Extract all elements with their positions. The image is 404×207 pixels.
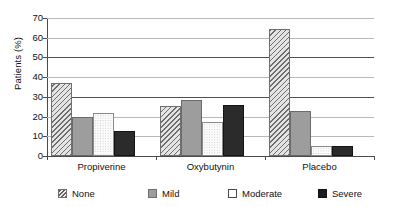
legend-item-mild[interactable]: Mild bbox=[148, 188, 179, 199]
bar-mild bbox=[72, 117, 93, 156]
bar-severe bbox=[332, 146, 353, 156]
y-axis-tick-mark bbox=[43, 77, 47, 78]
y-axis-tick-label: 60 bbox=[19, 33, 43, 42]
bar-moderate bbox=[311, 146, 332, 156]
y-axis-tick-label: 40 bbox=[19, 72, 43, 81]
y-axis-tick-mark bbox=[43, 57, 47, 58]
bar-groups bbox=[47, 18, 374, 156]
bar-group bbox=[51, 18, 135, 156]
y-axis-tick-label: 10 bbox=[19, 131, 43, 140]
y-axis-tick-label: 70 bbox=[19, 13, 43, 22]
legend-swatch-severe-icon bbox=[318, 189, 327, 198]
legend-label: Moderate bbox=[242, 188, 282, 199]
legend-label: None bbox=[72, 188, 95, 199]
bar-mild bbox=[290, 111, 311, 156]
legend-swatch-moderate-icon bbox=[228, 189, 237, 198]
legend-swatch-mild-icon bbox=[148, 189, 157, 198]
bar-moderate bbox=[202, 122, 223, 157]
legend-swatch-none-icon bbox=[58, 189, 67, 198]
bar-moderate bbox=[93, 113, 114, 156]
y-axis-tick-label: 30 bbox=[19, 92, 43, 101]
x-axis-tick-mark bbox=[47, 156, 48, 160]
bar-chart: Patients (%) 706050403020100 Propiverine… bbox=[0, 0, 404, 207]
x-axis-category-label: Propiverine bbox=[47, 161, 156, 172]
y-axis-title: Patients (%) bbox=[12, 9, 23, 119]
x-axis-category-label: Oxybutynin bbox=[156, 161, 265, 172]
bar-none bbox=[160, 106, 181, 156]
y-axis-tick-mark bbox=[43, 97, 47, 98]
legend-item-severe[interactable]: Severe bbox=[318, 188, 362, 199]
chart-legend: NoneMildModerateSevere bbox=[0, 182, 404, 204]
y-axis-tick-mark bbox=[43, 38, 47, 39]
x-axis-category-label: Placebo bbox=[265, 161, 374, 172]
bar-none bbox=[269, 29, 290, 156]
legend-item-moderate[interactable]: Moderate bbox=[228, 188, 282, 199]
y-axis-tick-label: 0 bbox=[19, 151, 43, 160]
legend-item-none[interactable]: None bbox=[58, 188, 95, 199]
y-axis-tick-mark bbox=[43, 117, 47, 118]
bar-severe bbox=[114, 131, 135, 156]
y-axis-tick-mark bbox=[43, 18, 47, 19]
bar-group bbox=[269, 18, 353, 156]
y-axis-tick-label: 20 bbox=[19, 112, 43, 121]
bar-severe bbox=[223, 105, 244, 156]
bar-group bbox=[160, 18, 244, 156]
legend-label: Mild bbox=[162, 188, 179, 199]
x-axis-tick-mark bbox=[265, 156, 266, 160]
x-axis-tick-mark bbox=[374, 156, 375, 160]
bar-mild bbox=[181, 100, 202, 156]
y-axis-tick-label: 50 bbox=[19, 52, 43, 61]
bar-none bbox=[51, 83, 72, 156]
legend-label: Severe bbox=[332, 188, 362, 199]
x-axis-tick-mark bbox=[156, 156, 157, 160]
x-axis-line bbox=[47, 156, 375, 157]
y-axis-tick-mark bbox=[43, 136, 47, 137]
plot-area bbox=[47, 18, 374, 156]
